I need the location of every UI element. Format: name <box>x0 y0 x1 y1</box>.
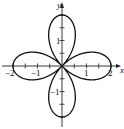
y-axis-label: y <box>56 0 61 10</box>
x-tick-label-neg2: −2 <box>5 68 15 78</box>
rose-curve-plot: x y −2 −1 1 2 1 −1 <box>0 0 124 129</box>
y-tick-label-pos1: 1 <box>56 36 61 46</box>
y-tick-label-neg1: −1 <box>50 87 60 97</box>
x-axis-label: x <box>119 65 124 75</box>
x-tick-label-pos1: 1 <box>84 68 89 78</box>
x-tick-label-neg1: −1 <box>31 68 41 78</box>
x-tick-label-pos2: 2 <box>108 68 113 78</box>
